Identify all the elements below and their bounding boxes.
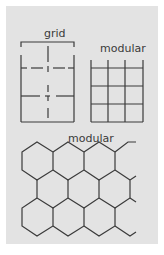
modular-square-diagram — [91, 60, 143, 122]
modular-hex-diagram — [22, 142, 136, 236]
layout-diagrams — [0, 0, 164, 255]
grid-diagram — [21, 42, 74, 122]
